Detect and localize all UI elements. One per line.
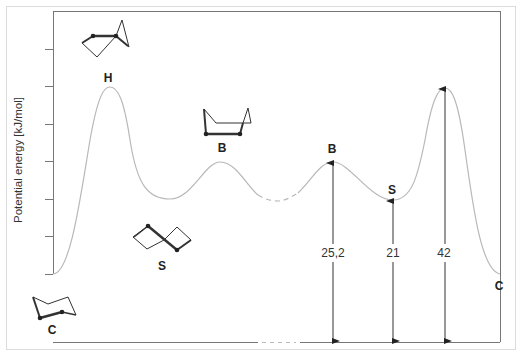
label-boat-right: B [328,142,337,156]
label-twist-boat-right: S [388,183,396,197]
y-axis [45,11,54,275]
plot-box [53,11,501,343]
label-boat-left: B [218,141,227,155]
chair-molecule-icon [33,297,76,320]
energy-arrows [333,89,445,341]
energy-curve [53,87,500,274]
label-half-chair: H [104,71,113,85]
outer-frame [7,7,516,350]
energy-value-half-chair: 42 [437,244,450,262]
energy-value-twist-boat: 21 [386,244,399,262]
label-chair-right: C [495,279,504,293]
label-twist-boat-left: S [158,259,166,273]
half-chair-molecule-icon [82,20,129,57]
label-chair-left: C [48,323,57,337]
twist-boat-molecule-icon [133,224,191,253]
energy-diagram [0,0,522,356]
energy-value-boat: 25,2 [321,244,344,262]
y-axis-label-text: Potential energy [kJ/mol] [12,97,24,223]
boat-molecule-icon [204,108,251,136]
